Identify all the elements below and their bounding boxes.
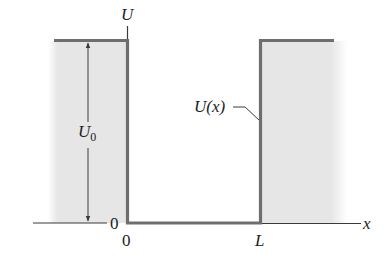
right-barrier-shading [261,41,347,223]
zero-energy-label: 0 [110,214,119,233]
u-axis-label: U [121,5,135,24]
potential-curve-label: U(x) [194,97,225,116]
x-axis-label: x [362,214,371,233]
potential-label-leader [233,107,259,120]
origin-label: 0 [122,231,131,250]
barrier-height-subscript: 0 [90,130,96,144]
well-width-label: L [254,231,264,250]
potential-well-diagram: U x U0 0 0 L U(x) [0,0,390,271]
